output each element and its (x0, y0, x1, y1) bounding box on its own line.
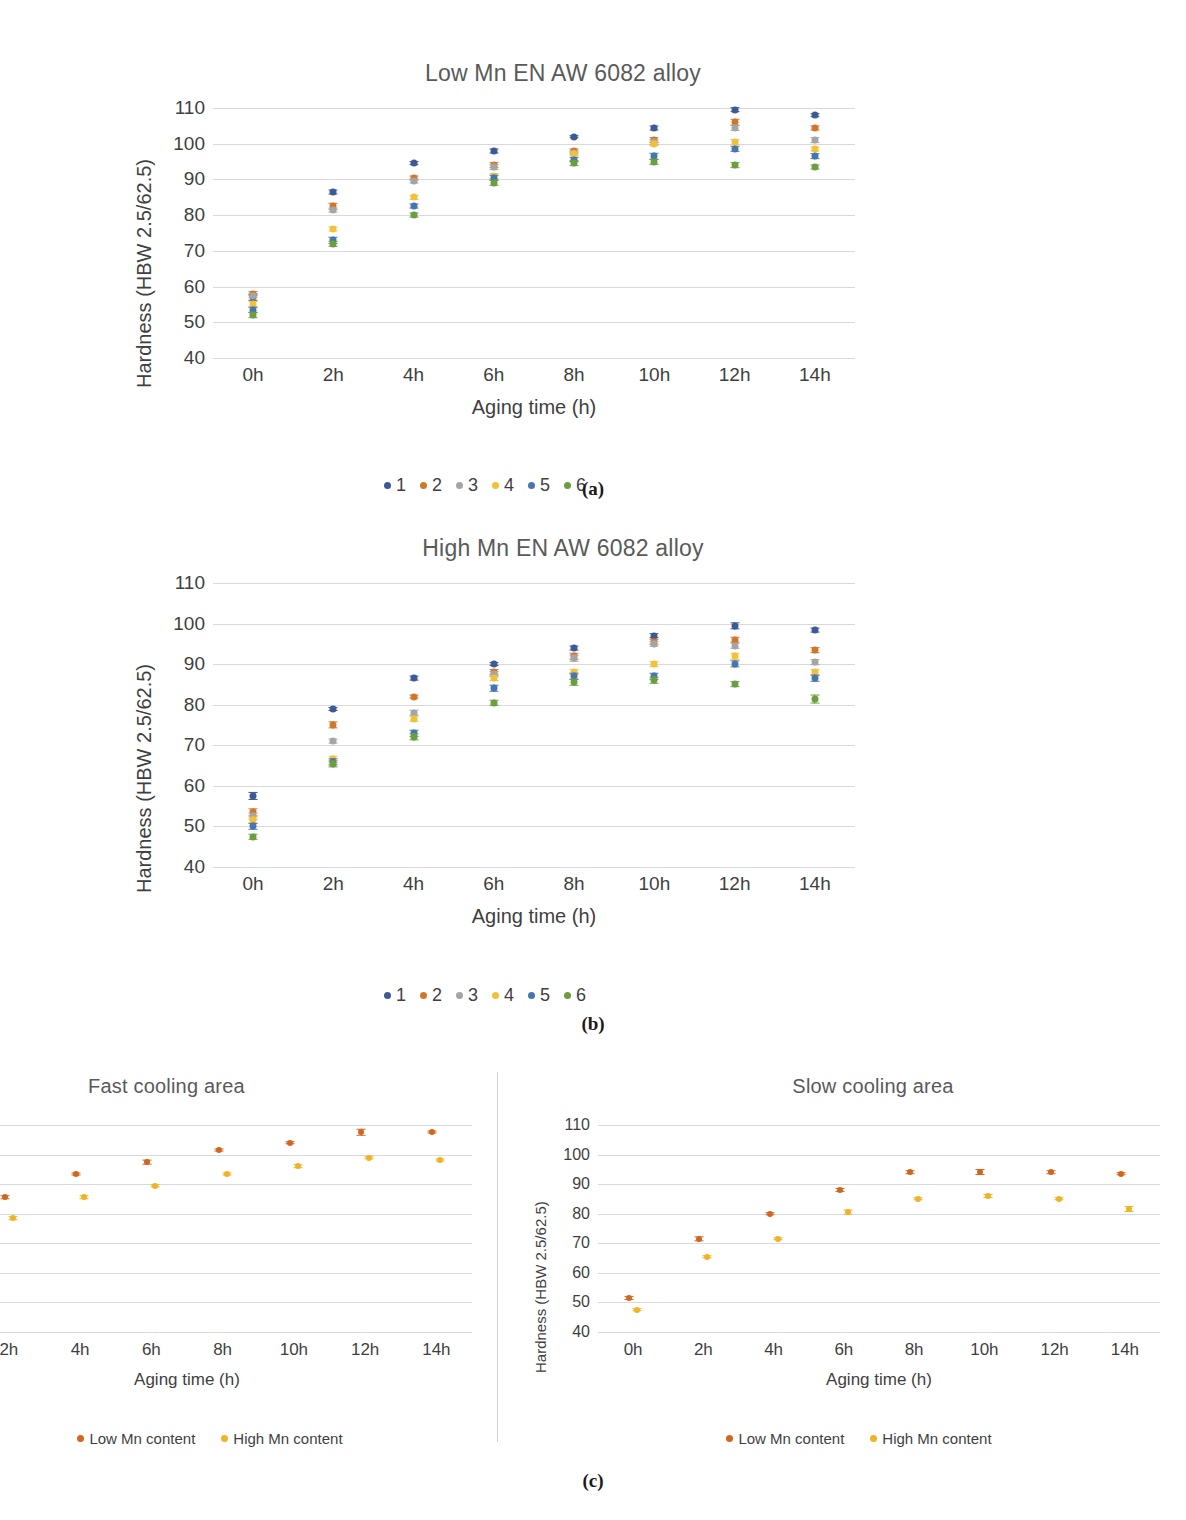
data-point (10, 1215, 16, 1221)
legend-label: 2 (432, 985, 442, 1006)
y-axis-tick-label: 40 (184, 856, 205, 878)
gridline (213, 745, 855, 746)
legend-item[interactable]: Low Mn content (726, 1430, 844, 1447)
data-point (330, 188, 337, 195)
data-point (651, 140, 658, 147)
data-point (696, 1236, 702, 1242)
gridline (213, 664, 855, 665)
data-point (977, 1169, 983, 1175)
x-axis-tick-label: 12h (351, 1340, 379, 1360)
legend-label: 6 (576, 985, 586, 1006)
x-axis-tick-label: 4h (403, 873, 424, 895)
data-point (410, 160, 417, 167)
data-point (731, 162, 738, 169)
data-point (1048, 1169, 1054, 1175)
x-axis-tick-label: 12h (719, 364, 751, 386)
y-axis-tick-label: 90 (184, 653, 205, 675)
gridline (213, 322, 855, 323)
y-axis-ticks-high-mn: 405060708090100110 (143, 583, 205, 867)
data-point (811, 695, 818, 702)
gridline (598, 1273, 1160, 1274)
gridline (598, 1125, 1160, 1126)
legend-label: 1 (396, 985, 406, 1006)
gridline (598, 1184, 1160, 1185)
legend-marker-icon (420, 992, 427, 999)
data-point (250, 823, 257, 830)
legend-slow-cooling: Low Mn contentHigh Mn content (578, 1430, 1140, 1447)
legend-marker-icon (456, 992, 463, 999)
y-axis-tick-label: 40 (184, 347, 205, 369)
data-point (651, 640, 658, 647)
y-axis-tick-label: 70 (572, 1234, 590, 1252)
panel-label-b: (b) (0, 1013, 1186, 1035)
legend-item[interactable]: 3 (456, 985, 478, 1006)
x-axis-ticks-slow-cooling: 0h2h4h6h8h10h12h14h (598, 1340, 1160, 1364)
data-point (811, 146, 818, 153)
legend-item[interactable]: Low Mn content (77, 1430, 195, 1447)
data-point (651, 677, 658, 684)
y-axis-tick-label: 50 (572, 1293, 590, 1311)
data-point (651, 124, 658, 131)
legend-marker-icon (528, 992, 535, 999)
x-axis-tick-label: 6h (834, 1340, 853, 1360)
gridline (0, 1214, 472, 1215)
x-axis-tick-label: 12h (719, 873, 751, 895)
gridline (213, 786, 855, 787)
chart-title-fast-cooling: Fast cooling area (88, 1075, 497, 1098)
data-point (731, 642, 738, 649)
data-point (731, 681, 738, 688)
plot-canvas-fast-cooling (0, 1125, 472, 1332)
data-point (634, 1307, 640, 1313)
gridline (213, 358, 855, 359)
data-point (811, 124, 818, 131)
data-point (330, 226, 337, 233)
panel-b-high-mn: High Mn EN AW 6082 alloy Hardness (HBW 2… (0, 535, 1186, 1010)
legend-item[interactable]: High Mn content (221, 1430, 342, 1447)
data-point (410, 675, 417, 682)
y-axis-tick-label: 110 (564, 1116, 590, 1134)
data-point (731, 146, 738, 153)
legend-label: Low Mn content (738, 1430, 844, 1447)
x-axis-tick-label: 12h (1040, 1340, 1068, 1360)
data-point (330, 722, 337, 729)
data-point (775, 1236, 781, 1242)
legend-item[interactable]: 6 (564, 985, 586, 1006)
legend-high-mn: 123456 (115, 985, 855, 1006)
chart-title-high-mn: High Mn EN AW 6082 alloy (0, 535, 1186, 562)
data-point (490, 661, 497, 668)
data-point (767, 1211, 773, 1217)
data-point (571, 655, 578, 662)
data-point (330, 240, 337, 247)
legend-item[interactable]: High Mn content (870, 1430, 991, 1447)
data-point (224, 1171, 230, 1177)
data-point (152, 1183, 158, 1189)
legend-item[interactable]: 5 (528, 985, 550, 1006)
x-axis-tick-label: 0h (243, 873, 264, 895)
data-point (250, 793, 257, 800)
legend-marker-icon (384, 992, 391, 999)
data-point (731, 106, 738, 113)
gridline (213, 108, 855, 109)
legend-item[interactable]: 2 (420, 985, 442, 1006)
data-point (1056, 1196, 1062, 1202)
legend-item[interactable]: 4 (492, 985, 514, 1006)
data-point (2, 1194, 8, 1200)
panel-a-low-mn: Low Mn EN AW 6082 alloy Hardness (HBW 2.… (0, 60, 1186, 505)
data-point (250, 292, 257, 299)
data-point (330, 738, 337, 745)
gridline (213, 624, 855, 625)
data-point (490, 699, 497, 706)
data-point (73, 1171, 79, 1177)
x-axis-tick-label: 4h (71, 1340, 90, 1360)
plot-area-fast-cooling: 2h4h6h8h10h12h14h Aging time (h) (0, 1125, 487, 1355)
y-axis-tick-label: 100 (173, 133, 205, 155)
data-point (429, 1129, 435, 1135)
y-axis-ticks-low-mn: 405060708090100110 (143, 108, 205, 358)
y-axis-tick-label: 100 (173, 613, 205, 635)
plot-area-low-mn: Hardness (HBW 2.5/62.5) 4050607080901001… (115, 108, 855, 403)
legend-item[interactable]: 1 (384, 985, 406, 1006)
data-point (410, 212, 417, 219)
data-point (811, 659, 818, 666)
data-point (330, 206, 337, 213)
data-point (1126, 1206, 1132, 1212)
